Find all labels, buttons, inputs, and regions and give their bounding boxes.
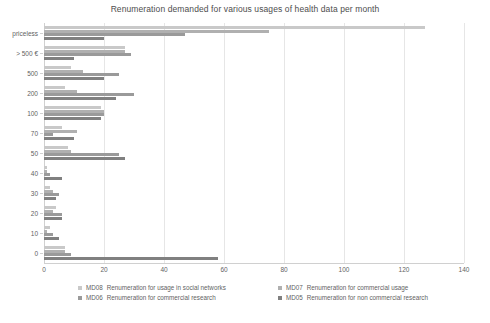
bar-group <box>44 183 464 203</box>
y-axis-tick-label: priceless <box>12 30 38 37</box>
bar <box>44 173 50 176</box>
y-axis-tick <box>40 173 43 174</box>
bar <box>44 233 53 236</box>
bar <box>44 26 425 29</box>
legend-swatch-icon <box>278 286 282 290</box>
bar-group <box>44 83 464 103</box>
bar <box>44 73 119 76</box>
legend-swatch-icon <box>78 296 82 300</box>
bar <box>44 253 71 256</box>
x-axis-tick-label: 40 <box>160 266 167 273</box>
y-axis-tick <box>40 213 43 214</box>
y-axis-tick <box>40 113 43 114</box>
y-axis-tick-label: 100 <box>27 110 38 117</box>
bar <box>44 130 77 133</box>
bar <box>44 53 131 56</box>
bar <box>44 137 74 140</box>
y-axis-tick <box>40 33 43 34</box>
bar <box>44 237 59 240</box>
y-axis-labels: priceless> 500 €5002001007050403020100 <box>0 23 42 263</box>
y-axis-tick-label: 30 <box>31 190 38 197</box>
y-axis-tick <box>40 73 43 74</box>
y-axis-tick-label: 50 <box>31 150 38 157</box>
bar <box>44 110 104 113</box>
plot-area <box>44 23 464 263</box>
y-axis-tick-label: 70 <box>31 130 38 137</box>
bar <box>44 217 62 220</box>
y-axis-tick-label: 10 <box>31 230 38 237</box>
legend-series-code: MD08 <box>86 284 103 291</box>
bar <box>44 93 134 96</box>
bar <box>44 210 53 213</box>
bar <box>44 257 218 260</box>
gridline <box>464 23 465 263</box>
bar <box>44 153 119 156</box>
x-axis-line <box>44 263 464 264</box>
legend-item-md05[interactable]: MD05Renumeration for non commercial rese… <box>278 294 478 301</box>
legend-swatch-icon <box>78 286 82 290</box>
chart-title: Renumeration demanded for various usages… <box>0 4 490 14</box>
bar-group <box>44 143 464 163</box>
legend-series-code: MD07 <box>286 284 303 291</box>
bar <box>44 213 62 216</box>
x-axis-tick-label: 140 <box>459 266 470 273</box>
chart-legend: MD08Renumeration for usage in social net… <box>78 284 478 304</box>
bar <box>44 90 77 93</box>
bar <box>44 230 47 233</box>
x-axis-tick-label: 0 <box>42 266 46 273</box>
legend-series-code: MD05 <box>286 294 303 301</box>
bar-group <box>44 163 464 183</box>
bar-rows <box>44 23 464 263</box>
bar <box>44 86 65 89</box>
bar <box>44 170 47 173</box>
x-axis-labels: 020406080100120140 <box>44 266 464 278</box>
legend-series-label: Renumeration for usage in social network… <box>107 284 226 291</box>
legend-item-md08[interactable]: MD08Renumeration for usage in social net… <box>78 284 278 291</box>
x-axis-tick-label: 120 <box>399 266 410 273</box>
bar-group <box>44 43 464 63</box>
bar <box>44 177 62 180</box>
bar <box>44 113 104 116</box>
bar <box>44 97 116 100</box>
y-axis-tick-label: > 500 € <box>16 50 38 57</box>
bar-group <box>44 203 464 223</box>
bar <box>44 197 56 200</box>
legend-item-md07[interactable]: MD07Renumeration for commercial usage <box>278 284 478 291</box>
y-axis-tick <box>40 253 43 254</box>
bar <box>44 30 269 33</box>
bar <box>44 50 125 53</box>
y-axis-tick-label: 500 <box>27 70 38 77</box>
bar <box>44 186 50 189</box>
bar <box>44 77 104 80</box>
bar <box>44 133 53 136</box>
bar <box>44 150 71 153</box>
y-axis-tick-label: 0 <box>34 250 38 257</box>
bar <box>44 37 104 40</box>
bar-group <box>44 123 464 143</box>
y-axis-tick-label: 20 <box>31 210 38 217</box>
legend-item-md06[interactable]: MD06Renumeration for commercial research <box>78 294 278 301</box>
bar <box>44 66 71 69</box>
bar <box>44 226 50 229</box>
bar <box>44 126 62 129</box>
bar <box>44 250 65 253</box>
chart-container: Renumeration demanded for various usages… <box>0 0 490 323</box>
y-axis-tick <box>40 133 43 134</box>
bar <box>44 33 185 36</box>
x-axis-tick-label: 60 <box>220 266 227 273</box>
bar <box>44 70 83 73</box>
legend-series-label: Renumeration for commercial research <box>107 294 216 301</box>
bar-group <box>44 23 464 43</box>
y-axis-tick <box>40 93 43 94</box>
y-axis-tick <box>40 233 43 234</box>
y-axis-tick <box>40 193 43 194</box>
bar <box>44 193 59 196</box>
bar <box>44 206 56 209</box>
legend-series-code: MD06 <box>86 294 103 301</box>
legend-series-label: Renumeration for commercial usage <box>307 284 409 291</box>
y-axis-tick <box>40 153 43 154</box>
bar <box>44 146 68 149</box>
y-axis-tick-label: 200 <box>27 90 38 97</box>
x-axis-tick-label: 20 <box>100 266 107 273</box>
x-axis-tick-label: 80 <box>280 266 287 273</box>
